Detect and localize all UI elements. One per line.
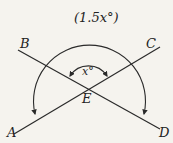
point-label-a: A <box>6 125 16 140</box>
point-label-d: D <box>158 125 170 140</box>
diagram-canvas: (1.5x°) x° B C E A D <box>0 0 173 143</box>
point-label-c: C <box>146 36 156 51</box>
point-label-e: E <box>81 91 92 106</box>
point-label-b: B <box>19 36 30 51</box>
line-bd <box>18 50 160 129</box>
inner-angle-label: x° <box>82 65 94 78</box>
outer-angle-label: (1.5x°) <box>74 10 119 25</box>
geometry-diagram: (1.5x°) x° B C E A D <box>0 0 173 143</box>
